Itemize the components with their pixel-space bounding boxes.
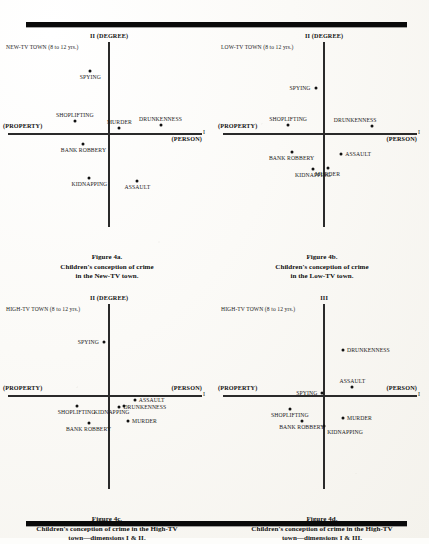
bottom-rule [26, 521, 407, 526]
data-point [351, 385, 354, 388]
data-point-label: BANK ROBBERY [279, 424, 324, 430]
left-pole-label: (PROPERTY) [3, 384, 42, 391]
data-point-label: SPYING [78, 339, 99, 345]
data-point-label: DRUNKENNESS [347, 347, 390, 353]
data-point-label: DRUNKENNESS [139, 116, 182, 122]
data-point-label: MURDER [315, 171, 340, 177]
left-pole-label: (PROPERTY) [218, 122, 257, 129]
horizontal-axis-title: I [418, 129, 420, 135]
caption-line: Children's conception of crime in the Hi… [215, 525, 429, 535]
data-point [340, 152, 343, 155]
data-point-label: MURDER [107, 119, 132, 125]
right-pole-label: (PERSON) [172, 384, 202, 391]
caption-line: town—dimensions I & III. [215, 534, 429, 544]
right-pole-label: (PERSON) [172, 135, 202, 142]
figure-number: Figure 4b. [215, 253, 429, 263]
right-pole-label: (PERSON) [387, 384, 417, 391]
left-pole-label: (PROPERTY) [3, 122, 42, 129]
figure-grid: II (DEGREE)INEW-TV TOWN (8 to 12 yrs.)(P… [0, 30, 429, 520]
data-point-label: BANK ROBBERY [66, 426, 111, 432]
data-point-label: SPYING [289, 85, 310, 91]
figure-4a: II (DEGREE)INEW-TV TOWN (8 to 12 yrs.)(P… [0, 30, 214, 298]
figure-caption: Figure 4a.Children's conception of crime… [0, 253, 214, 282]
data-point [341, 416, 344, 419]
vertical-axis-title: II (DEGREE) [90, 32, 128, 39]
data-point-label: ASSAULT [345, 151, 371, 157]
caption-line: in the Low-TV town. [215, 272, 429, 282]
town-label: HIGH-TV TOWN (8 to 12 yrs.) [221, 306, 295, 312]
data-point-label: SHOPLIFTING [58, 409, 96, 415]
data-point [323, 425, 326, 428]
horizontal-axis [8, 395, 202, 397]
data-point-label: BANK ROBBERY [269, 155, 314, 161]
data-point [314, 87, 317, 90]
town-label: LOW-TV TOWN (8 to 12 yrs.) [221, 44, 294, 50]
figure-caption: Figure 4d.Children's conception of crime… [215, 515, 429, 544]
vertical-axis-title: II (DEGREE) [305, 32, 343, 39]
data-point-label: KIDNAPPING [72, 181, 108, 187]
data-point-label: KIDNAPPING [327, 429, 363, 435]
data-point [88, 176, 91, 179]
data-point-label: KIDNAPPING [94, 409, 130, 415]
caption-line: in the New-TV town. [0, 272, 214, 282]
data-point [89, 70, 92, 73]
left-pole-label: (PROPERTY) [218, 384, 257, 391]
figure-caption: Figure 4b.Children's conception of crime… [215, 253, 429, 282]
data-point-label: ASSAULT [339, 378, 365, 384]
town-label: NEW-TV TOWN (8 to 12 yrs.) [6, 44, 79, 50]
caption-line: Children's conception of crime [0, 263, 214, 273]
data-point [287, 123, 290, 126]
figure-4b: II (DEGREE)ILOW-TV TOWN (8 to 12 yrs.)(P… [215, 30, 429, 298]
data-point [371, 125, 374, 128]
horizontal-axis-title: I [203, 391, 205, 397]
data-point [159, 123, 162, 126]
data-point [288, 407, 291, 410]
caption-line: Children's conception of crime [215, 263, 429, 273]
scatter-plot: II (DEGREE)ILOW-TV TOWN (8 to 12 yrs.)(P… [215, 30, 429, 245]
figure-caption: Figure 4c.Children's conception of crime… [0, 515, 214, 544]
data-point-label: SPYING [80, 74, 101, 80]
horizontal-axis-title: I [418, 391, 420, 397]
data-point [73, 120, 76, 123]
data-point [312, 168, 315, 171]
data-point [321, 392, 324, 395]
vertical-axis-title: II (DEGREE) [90, 294, 128, 301]
data-point [341, 349, 344, 352]
data-point [118, 127, 121, 130]
scatter-plot: II (DEGREE)IHIGH-TV TOWN (8 to 12 yrs.)(… [0, 292, 214, 507]
data-point [75, 404, 78, 407]
top-rule [26, 22, 407, 27]
data-point-label: SHOPLIFTING [269, 116, 307, 122]
right-pole-label: (PERSON) [387, 135, 417, 142]
data-point [103, 340, 106, 343]
data-point-label: MURDER [132, 418, 157, 424]
data-point [326, 166, 329, 169]
data-point-label: MURDER [347, 415, 372, 421]
town-label: HIGH-TV TOWN (8 to 12 yrs.) [6, 306, 80, 312]
figure-4c: II (DEGREE)IHIGH-TV TOWN (8 to 12 yrs.)(… [0, 292, 214, 544]
data-point [122, 404, 125, 407]
data-point [133, 399, 136, 402]
data-point [126, 420, 129, 423]
data-point-label: DRUNKENNESS [123, 404, 166, 410]
data-point-label: ASSAULT [124, 184, 150, 190]
vertical-axis-title: III [320, 294, 328, 301]
data-point-label: SHOPLIFTING [56, 112, 94, 118]
horizontal-axis-title: I [203, 129, 205, 135]
figure-4d: IIIIHIGH-TV TOWN (8 to 12 yrs.)(PROPERTY… [215, 292, 429, 544]
data-point [82, 142, 85, 145]
horizontal-axis [223, 395, 417, 397]
data-point [87, 421, 90, 424]
data-point [300, 420, 303, 423]
data-point [290, 151, 293, 154]
data-point-label: DRUNKENNESS [334, 117, 377, 123]
caption-line: town—dimensions I & II. [0, 534, 214, 544]
data-point-label: SHOPLIFTING [271, 412, 309, 418]
data-point-label: ASSAULT [139, 397, 165, 403]
data-point-label: SPYING [296, 390, 317, 396]
data-point [136, 180, 139, 183]
figure-number: Figure 4a. [0, 253, 214, 263]
data-point-label: BANK ROBBERY [61, 147, 106, 153]
scatter-plot: IIIIHIGH-TV TOWN (8 to 12 yrs.)(PROPERTY… [215, 292, 429, 507]
